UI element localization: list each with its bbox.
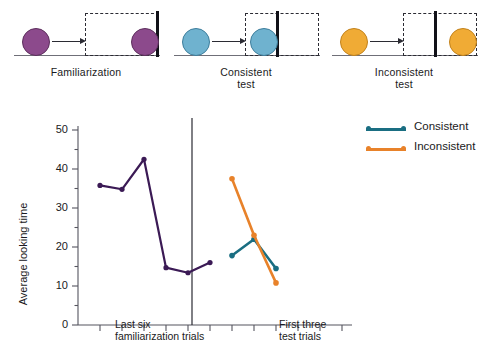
legend-label-consistent: Consistent bbox=[414, 120, 468, 132]
series-familiarization bbox=[97, 157, 212, 276]
ball-end bbox=[131, 28, 159, 56]
diagram-panel-consistent-test: Consistent test bbox=[166, 0, 326, 96]
looking-time-chart: Average looking time 01020304050 Last si… bbox=[0, 100, 484, 351]
ball-start bbox=[182, 28, 210, 56]
occluder-wall bbox=[434, 11, 437, 57]
series-line bbox=[100, 159, 210, 272]
data-point bbox=[229, 253, 235, 259]
data-point bbox=[185, 270, 190, 275]
ball-end bbox=[449, 28, 477, 56]
motion-arrow-head bbox=[80, 38, 86, 44]
motion-arrow-line bbox=[212, 41, 242, 42]
y-axis-title: Average looking time bbox=[17, 179, 29, 329]
legend-label-inconsistent: Inconsistent bbox=[414, 140, 475, 152]
data-point bbox=[273, 266, 279, 272]
ball-start bbox=[340, 28, 368, 56]
y-tick-label: 20 bbox=[42, 240, 68, 252]
y-tick-label: 10 bbox=[42, 279, 68, 291]
panel-stage bbox=[6, 0, 166, 66]
legend-marker-right-icon bbox=[401, 146, 406, 151]
panel-caption-line2: test bbox=[324, 78, 484, 90]
data-point bbox=[119, 187, 124, 192]
y-tick-label: 0 bbox=[42, 318, 68, 330]
panel-stage bbox=[166, 0, 326, 66]
chart-plot-area bbox=[0, 100, 484, 351]
series-line bbox=[232, 239, 276, 268]
diagram-panel-inconsistent-test: Inconsistent test bbox=[324, 0, 484, 96]
series-consistent bbox=[229, 236, 279, 271]
panel-caption-line1: Inconsistent bbox=[324, 66, 484, 78]
legend-marker-left-icon bbox=[366, 146, 371, 151]
data-point bbox=[163, 265, 168, 270]
panel-caption-line1: Consistent bbox=[166, 66, 326, 78]
legend-swatch-consistent bbox=[366, 128, 406, 131]
data-point bbox=[97, 183, 102, 188]
y-tick-label: 30 bbox=[42, 201, 68, 213]
data-point bbox=[229, 176, 235, 182]
motion-arrow-head bbox=[398, 38, 404, 44]
panel-caption-line2: test bbox=[166, 78, 326, 90]
diagram-panel-familiarization: Familiarization bbox=[6, 0, 166, 96]
motion-arrow-line bbox=[370, 41, 400, 42]
x-group-label-test-line1: First three bbox=[279, 318, 326, 330]
figure-root: Familiarization Consistent test bbox=[0, 0, 484, 351]
panel-caption-line1: Familiarization bbox=[6, 66, 166, 78]
motion-arrow-head bbox=[240, 38, 246, 44]
legend-swatch-inconsistent bbox=[366, 148, 406, 151]
y-tick-label: 40 bbox=[42, 162, 68, 174]
ball-start bbox=[22, 28, 50, 56]
x-group-label-familiarization-line1: Last six bbox=[115, 318, 151, 330]
legend-marker-left-icon bbox=[366, 126, 371, 131]
series-line bbox=[232, 179, 276, 283]
data-point bbox=[251, 233, 257, 239]
data-point bbox=[141, 157, 146, 162]
y-tick-label: 50 bbox=[42, 123, 68, 135]
x-group-label-test-line2: test trials bbox=[279, 330, 321, 342]
series-inconsistent bbox=[229, 176, 279, 286]
motion-arrow-line bbox=[52, 41, 82, 42]
data-point bbox=[207, 260, 212, 265]
diagram-strip: Familiarization Consistent test bbox=[0, 0, 484, 96]
legend-marker-right-icon bbox=[401, 126, 406, 131]
occluder-wall bbox=[276, 11, 279, 57]
data-point bbox=[273, 280, 279, 286]
x-group-label-familiarization-line2: familiarization trials bbox=[115, 330, 204, 342]
ball-end bbox=[250, 28, 278, 56]
panel-stage bbox=[324, 0, 484, 66]
